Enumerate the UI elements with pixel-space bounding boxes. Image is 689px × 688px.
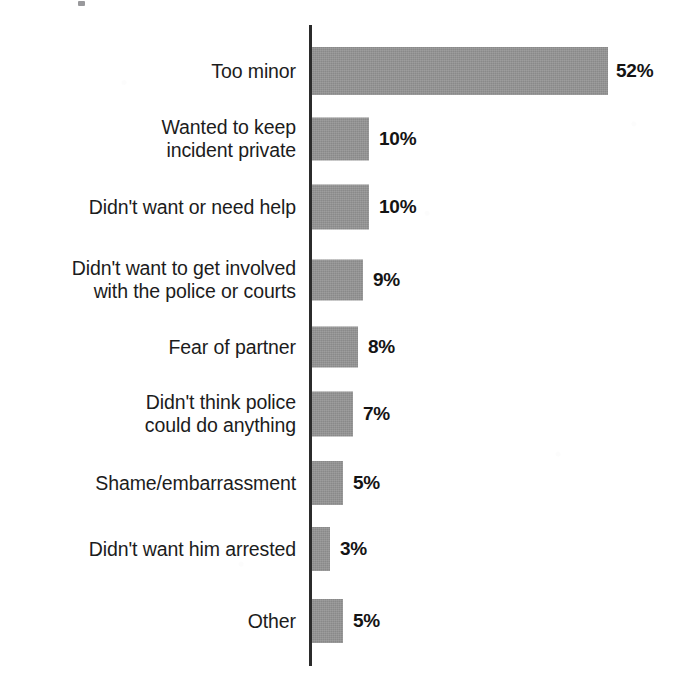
bar-fear-of-partner [312,327,358,368]
category-label-didnt-want-or-need-help: Didn't want or need help [0,196,296,219]
value-label-didnt-want-to-get-involved: 9% [373,269,400,291]
value-label-too-minor: 52% [616,60,653,82]
category-label-didnt-want-him-arrested: Didn't want him arrested [0,538,296,561]
value-label-wanted-to-keep-incident-private: 10% [379,128,416,150]
category-label-fear-of-partner: Fear of partner [0,336,296,359]
bar-chart-plot-area: Too minor 52% Wanted to keep incident pr… [0,0,689,688]
value-label-fear-of-partner: 8% [368,336,395,358]
bar-other [312,599,343,643]
bar-didnt-want-or-need-help [312,185,369,230]
category-label-other: Other [0,610,296,633]
value-label-didnt-want-or-need-help: 10% [379,196,416,218]
category-label-shame-embarrassment: Shame/embarrassment [0,472,296,495]
value-label-didnt-want-him-arrested: 3% [340,538,367,560]
value-label-didnt-think-police-could-do-anything: 7% [363,403,390,425]
value-label-other: 5% [353,610,380,632]
bar-too-minor [312,47,608,95]
bar-didnt-want-him-arrested [312,527,330,571]
bar-shame-embarrassment [312,461,343,505]
category-label-too-minor: Too minor [0,60,296,83]
category-label-didnt-think-police-could-do-anything: Didn't think police could do anything [0,391,296,437]
chart-container: Too minor 52% Wanted to keep incident pr… [0,0,689,688]
bar-didnt-want-to-get-involved [312,260,363,301]
value-label-shame-embarrassment: 5% [353,472,380,494]
category-label-didnt-want-to-get-involved: Didn't want to get involved with the pol… [0,257,296,303]
bar-didnt-think-police-could-do-anything [312,392,353,437]
category-label-wanted-to-keep-incident-private: Wanted to keep incident private [0,116,296,162]
bar-wanted-to-keep-incident-private [312,118,369,161]
